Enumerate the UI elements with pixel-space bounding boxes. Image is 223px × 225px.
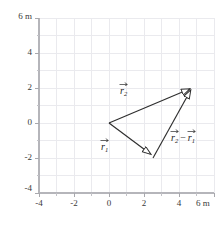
vector-diagram-figure: 6 m 4 2 0 -2 -4 -4 -2 0 2 4 6 m r 2 r 1: [0, 0, 223, 225]
x-tick-label-neg4: -4: [24, 199, 54, 208]
y-tick-label-6: 6 m: [2, 12, 32, 21]
x-tick-label-6m: 6 m: [196, 199, 222, 208]
x-tick-label-0: 0: [94, 199, 124, 208]
x-tick-label-neg2: -2: [59, 199, 89, 208]
plot-canvas: [0, 0, 223, 225]
r2-subscript: 2: [124, 90, 127, 97]
diff-r2-subscript: 2: [175, 137, 178, 144]
vector-label-r2: r 2: [120, 86, 127, 97]
r1-subscript: 1: [105, 146, 108, 153]
y-tick-label-neg4: -4: [2, 184, 32, 193]
x-tick-label-4: 4: [164, 199, 194, 208]
diff-r1-subscript: 1: [192, 137, 195, 144]
y-tick-label-2: 2: [2, 83, 32, 92]
y-tick-label-0: 0: [2, 118, 32, 127]
x-tick-label-2: 2: [129, 199, 159, 208]
vector-label-r2-minus-r1: r 2− r 1: [171, 133, 195, 144]
y-tick-label-neg2: -2: [2, 153, 32, 162]
minus-operator: −: [178, 132, 188, 143]
y-tick-label-4: 4: [2, 48, 32, 57]
vector-label-r1: r 1: [101, 142, 108, 153]
